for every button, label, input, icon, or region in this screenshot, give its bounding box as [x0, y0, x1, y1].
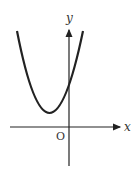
- x-axis-label: x: [124, 120, 131, 134]
- parabola-diagram: x y O: [0, 0, 137, 169]
- origin-label: O: [56, 130, 65, 143]
- parabola-curve: [17, 31, 83, 113]
- y-axis-label: y: [65, 11, 73, 25]
